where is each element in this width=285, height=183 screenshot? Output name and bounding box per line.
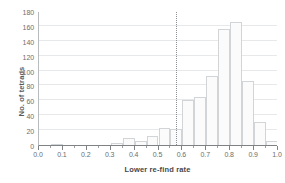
- y-tick-label: 140: [23, 38, 34, 45]
- x-tick-major: [181, 146, 182, 150]
- x-axis-tick-labels: 0.00.10.20.30.40.50.60.70.80.91.0: [38, 151, 277, 163]
- histogram-bar: [206, 76, 218, 145]
- y-tick-label: 180: [23, 9, 34, 16]
- x-tick-label: 0.6: [177, 151, 186, 158]
- x-tick-major: [229, 146, 230, 150]
- y-tick-label: 20: [26, 128, 34, 135]
- histogram-bar: [218, 29, 230, 145]
- x-tick-major: [62, 146, 63, 150]
- histogram-bars: [39, 12, 277, 145]
- x-tick-major: [158, 146, 159, 150]
- threshold-line: [176, 12, 177, 145]
- histogram-bar: [194, 97, 206, 145]
- histogram-bar: [182, 100, 194, 145]
- histogram-bar: [254, 122, 266, 145]
- y-tick-label: 80: [26, 83, 34, 90]
- histogram-bar: [147, 136, 159, 145]
- histogram-bar: [159, 128, 171, 145]
- histogram-bar: [230, 22, 242, 145]
- x-tick-label: 0.8: [224, 151, 233, 158]
- x-tick-label: 1.0: [272, 151, 281, 158]
- y-tick-label: 160: [23, 23, 34, 30]
- histogram-bar: [111, 143, 123, 145]
- y-axis-tick-labels: 020406080100120140160180: [14, 12, 36, 146]
- histogram-bar: [135, 141, 147, 145]
- x-tick-label: 0.4: [129, 151, 138, 158]
- x-tick-label: 0.5: [153, 151, 162, 158]
- x-tick-label: 0.9: [248, 151, 257, 158]
- x-tick-label: 0.2: [81, 151, 90, 158]
- plot-area: [38, 12, 277, 146]
- x-tick-label: 0.7: [201, 151, 210, 158]
- y-tick-label: 120: [23, 53, 34, 60]
- x-tick-major: [110, 146, 111, 150]
- histogram-bar: [51, 144, 63, 145]
- x-tick-label: 0.0: [33, 151, 42, 158]
- x-tick-major: [253, 146, 254, 150]
- x-tick-major: [38, 146, 39, 150]
- x-tick-label: 0.1: [57, 151, 66, 158]
- x-tick-major: [134, 146, 135, 150]
- y-tick-label: 60: [26, 98, 34, 105]
- x-axis-title: Lower re-find rate: [38, 165, 277, 174]
- x-tick-label: 0.3: [105, 151, 114, 158]
- y-tick-label: 40: [26, 113, 34, 120]
- y-tick-label: 100: [23, 68, 34, 75]
- x-tick-major: [277, 146, 278, 150]
- histogram-bar: [242, 81, 254, 145]
- x-tick-major: [205, 146, 206, 150]
- y-tick-label: 0: [30, 143, 34, 150]
- x-axis-major-ticks: [38, 146, 277, 150]
- histogram-figure: No. of tetrads 020406080100120140160180 …: [0, 0, 285, 183]
- histogram-bar: [123, 138, 135, 145]
- histogram-bar: [266, 141, 277, 145]
- x-tick-major: [86, 146, 87, 150]
